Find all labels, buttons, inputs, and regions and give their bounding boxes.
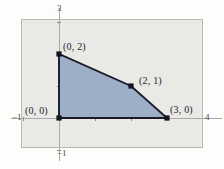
vertex-marker-3-0: [164, 115, 169, 120]
point-label-0-2: (0, 2): [63, 41, 86, 52]
point-label-0-0: (0, 0): [25, 105, 48, 116]
vertex-marker-2-1: [128, 83, 133, 88]
figure-canvas: 3 −1 4 −1 (0, 2) (2, 1) (3, 0) (0, 0): [0, 0, 224, 169]
vertex-marker-0-0: [56, 115, 61, 120]
vertex-marker-0-2: [56, 51, 61, 56]
shaded-region-plot: [0, 0, 224, 169]
point-label-2-1: (2, 1): [139, 75, 162, 86]
point-label-3-0: (3, 0): [170, 104, 193, 115]
shaded-region-polygon: [59, 54, 167, 118]
